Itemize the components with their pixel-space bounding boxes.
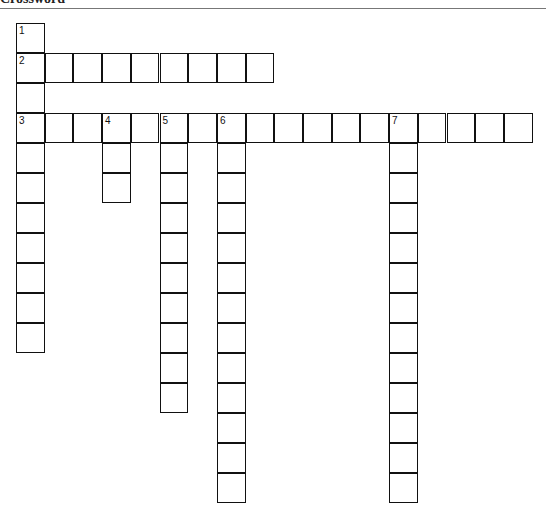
grid-cell[interactable] [389,383,418,413]
grid-cell[interactable] [217,53,246,83]
grid-cell[interactable] [160,53,189,83]
grid-cell[interactable] [73,53,102,83]
grid-cell[interactable]: 1 [16,23,45,53]
grid-cell[interactable] [389,263,418,293]
grid-cell[interactable] [418,113,447,143]
grid-cell[interactable]: 3 [16,113,45,143]
clue-number: 5 [163,115,169,126]
grid-cell[interactable] [16,173,45,203]
grid-cell[interactable] [274,113,303,143]
grid-cell[interactable] [160,143,189,173]
grid-cell[interactable]: 6 [217,113,246,143]
grid-cell[interactable] [160,383,189,413]
grid-cell[interactable] [16,83,45,113]
grid-cell[interactable] [16,203,45,233]
grid-cell[interactable] [131,53,160,83]
grid-cell[interactable] [102,53,131,83]
grid-cell[interactable] [504,113,533,143]
grid-cell[interactable] [16,293,45,323]
clue-number: 4 [105,115,111,126]
grid-cell[interactable]: 4 [102,113,131,143]
grid-cell[interactable] [217,233,246,263]
grid-cell[interactable] [303,113,332,143]
grid-cell[interactable] [217,263,246,293]
grid-cell[interactable] [217,143,246,173]
grid-cell[interactable] [389,443,418,473]
grid-cell[interactable] [160,263,189,293]
grid-cell[interactable] [475,113,504,143]
grid-cell[interactable] [389,473,418,503]
grid-cell[interactable] [217,353,246,383]
grid-cell[interactable] [217,383,246,413]
grid-cell[interactable] [360,113,389,143]
grid-cell[interactable] [160,203,189,233]
grid-cell[interactable] [102,173,131,203]
grid-cell[interactable] [389,353,418,383]
clue-number: 6 [220,115,226,126]
grid-cell[interactable]: 5 [160,113,189,143]
grid-cell[interactable] [217,323,246,353]
grid-cell[interactable] [102,143,131,173]
grid-cell[interactable] [160,323,189,353]
grid-cell[interactable] [73,113,102,143]
grid-cell[interactable] [217,203,246,233]
grid-cell[interactable] [389,233,418,263]
clue-number: 7 [392,115,398,126]
page-title: Crossword [0,0,65,7]
grid-cell[interactable] [16,143,45,173]
grid-cell[interactable] [389,203,418,233]
grid-cell[interactable]: 7 [389,113,418,143]
clue-number: 3 [19,115,25,126]
grid-cell[interactable] [160,233,189,263]
grid-cell[interactable] [160,173,189,203]
grid-cell[interactable] [246,53,275,83]
grid-cell[interactable] [217,293,246,323]
grid-cell[interactable] [160,353,189,383]
grid-cell[interactable] [447,113,476,143]
grid-cell[interactable] [246,113,275,143]
grid-cell[interactable] [16,323,45,353]
clue-number: 1 [19,25,25,36]
grid-cell[interactable] [389,143,418,173]
grid-cell[interactable] [45,53,74,83]
grid-cell[interactable] [389,413,418,443]
grid-cell[interactable] [188,53,217,83]
grid-cell[interactable] [217,443,246,473]
grid-cell[interactable] [217,473,246,503]
grid-cell[interactable] [217,173,246,203]
grid-cell[interactable] [332,113,361,143]
grid-cell[interactable] [160,293,189,323]
grid-cell[interactable] [188,113,217,143]
grid-cell[interactable] [217,413,246,443]
grid-cell[interactable] [131,113,160,143]
grid-cell[interactable] [45,113,74,143]
grid-cell[interactable] [389,173,418,203]
grid-cell[interactable] [16,233,45,263]
grid-cell[interactable] [389,323,418,353]
clue-number: 2 [19,55,25,66]
grid-cell[interactable] [16,263,45,293]
grid-cell[interactable]: 2 [16,53,45,83]
grid-cell[interactable] [389,293,418,323]
title-divider [0,8,546,9]
